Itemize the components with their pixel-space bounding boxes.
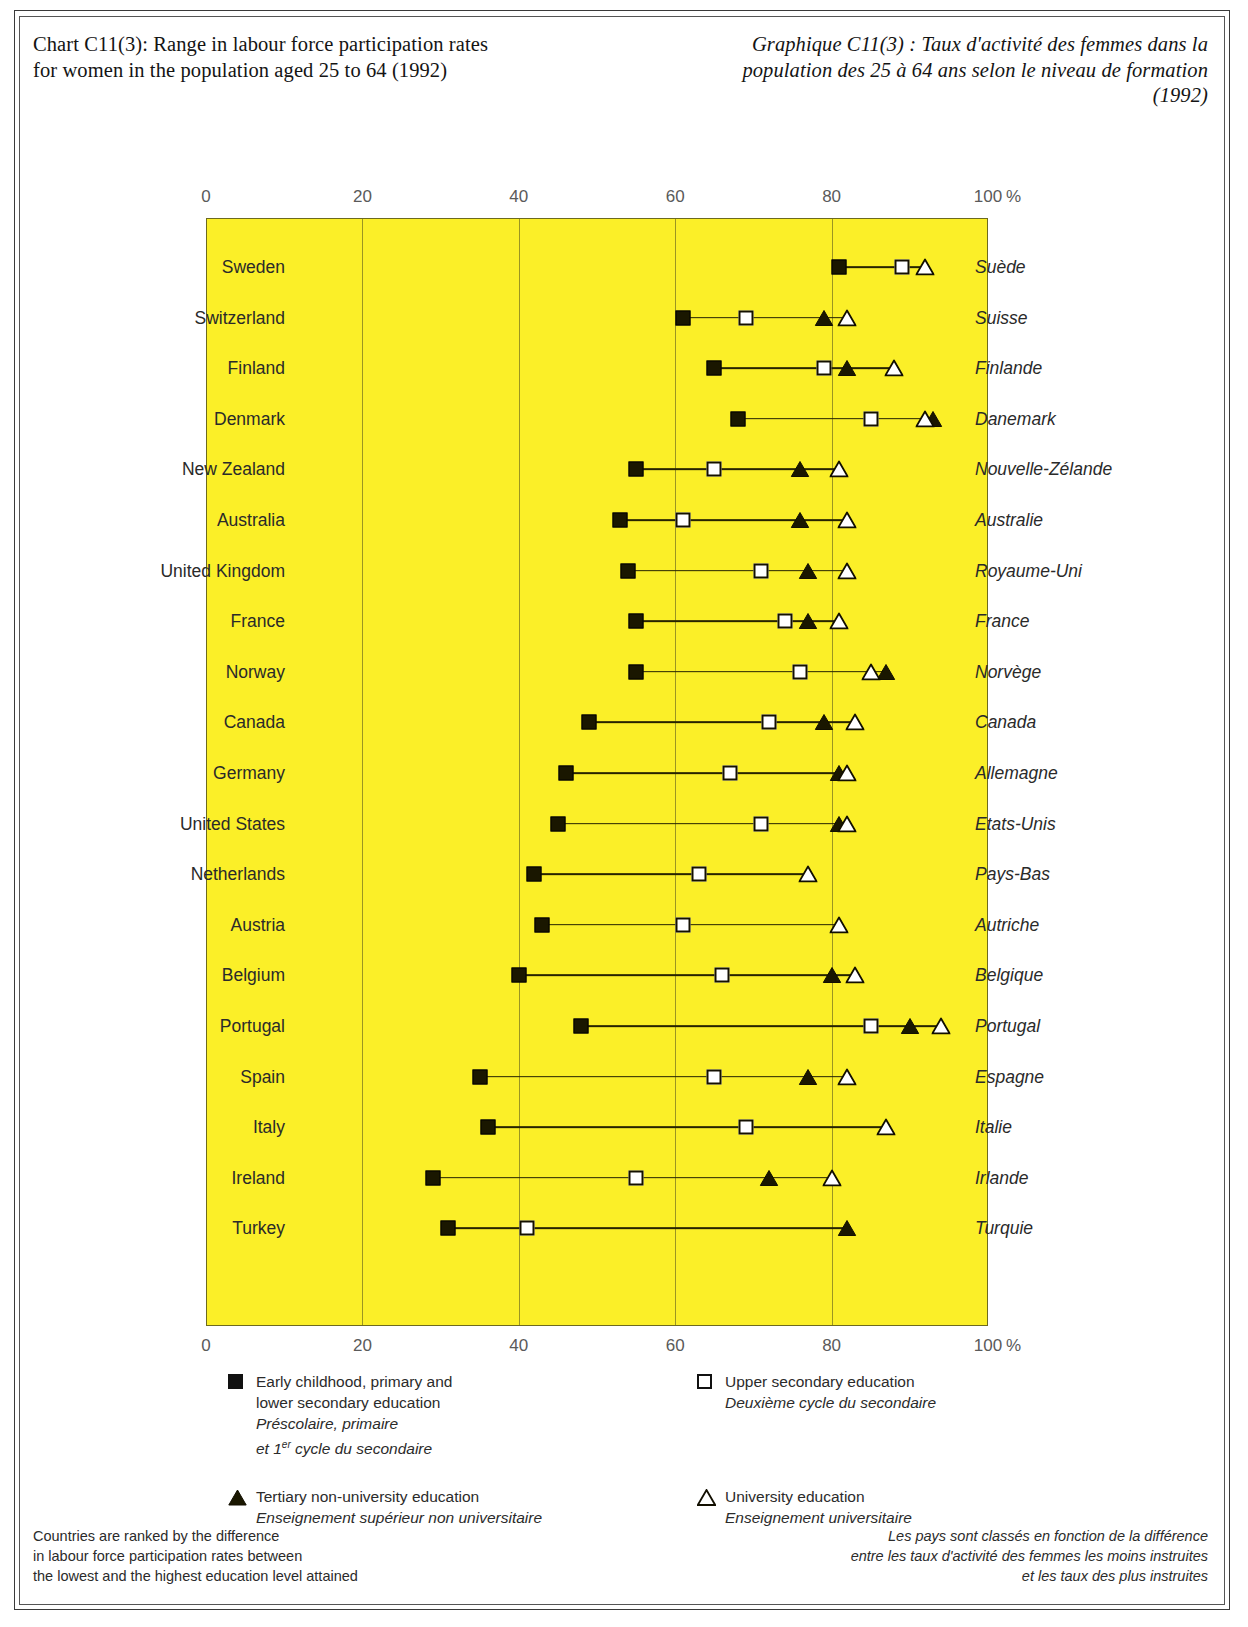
axis-tick-label-60: 60 xyxy=(666,1336,685,1356)
axis-tick-label-0: 0 xyxy=(201,187,210,207)
row-label-en-australia: Australia xyxy=(217,510,285,531)
range-line xyxy=(738,418,934,420)
marker-open-square xyxy=(863,411,878,426)
marker-open-triangle xyxy=(846,967,865,984)
marker-filled-triangle xyxy=(791,461,810,478)
marker-open-triangle xyxy=(838,1068,857,1085)
row-label-en-united-kingdom: United Kingdom xyxy=(160,560,285,581)
marker-open-square xyxy=(707,462,722,477)
marker-open-square xyxy=(816,361,831,376)
marker-open-square xyxy=(894,260,909,275)
row-label-fr-norway: Norvège xyxy=(975,661,1041,682)
axis-tick-label-100: 100 xyxy=(974,187,1002,207)
axis-tick-label-20: 20 xyxy=(353,187,372,207)
marker-open-triangle xyxy=(877,1119,896,1136)
marker-open-triangle xyxy=(799,866,818,883)
axis-tick-label-40: 40 xyxy=(509,187,528,207)
row-label-fr-austria: Autriche xyxy=(975,914,1039,935)
marker-filled-square xyxy=(480,1120,495,1135)
range-line xyxy=(448,1228,847,1230)
filled-square-icon xyxy=(228,1374,243,1389)
marker-open-triangle xyxy=(838,309,857,326)
axis-tick-label-0: 0 xyxy=(201,1336,210,1356)
marker-filled-square xyxy=(535,917,550,932)
marker-open-triangle xyxy=(916,410,935,427)
axis-tick-label-80: 80 xyxy=(822,187,841,207)
range-line xyxy=(839,266,925,268)
gridline xyxy=(362,219,363,1325)
marker-open-square xyxy=(676,513,691,528)
row-label-fr-portugal: Portugal xyxy=(975,1016,1040,1037)
marker-open-triangle xyxy=(932,1018,951,1035)
row-label-en-turkey: Turkey xyxy=(232,1218,285,1239)
marker-open-square xyxy=(754,816,769,831)
range-line xyxy=(620,519,847,521)
marker-filled-triangle xyxy=(814,309,833,326)
marker-filled-triangle xyxy=(838,360,857,377)
marker-filled-square xyxy=(629,614,644,629)
marker-filled-triangle xyxy=(799,1068,818,1085)
range-line xyxy=(566,772,848,774)
axis-tick-label-40: 40 xyxy=(509,1336,528,1356)
marker-open-square xyxy=(722,766,737,781)
row-label-en-spain: Spain xyxy=(240,1066,285,1087)
marker-filled-triangle xyxy=(799,613,818,630)
range-line xyxy=(488,1126,887,1128)
legend-label-en: University education xyxy=(725,1486,912,1507)
marker-filled-triangle xyxy=(791,512,810,529)
legend-label-fr: Enseignement universitaire xyxy=(725,1507,912,1528)
range-line xyxy=(714,367,894,369)
marker-open-square xyxy=(676,917,691,932)
filled-triangle-icon xyxy=(228,1489,247,1510)
row-label-fr-australia: Australie xyxy=(975,510,1043,531)
marker-open-triangle xyxy=(846,714,865,731)
marker-filled-triangle xyxy=(900,1018,919,1035)
marker-filled-triangle xyxy=(838,1220,857,1237)
marker-open-square xyxy=(777,614,792,629)
marker-filled-triangle xyxy=(822,967,841,984)
range-line xyxy=(519,975,855,977)
marker-open-square xyxy=(754,563,769,578)
marker-filled-square xyxy=(730,411,745,426)
row-label-en-norway: Norway xyxy=(226,661,285,682)
legend-label-en: Tertiary non-university education xyxy=(256,1486,542,1507)
marker-open-square xyxy=(863,1019,878,1034)
marker-open-square xyxy=(691,867,706,882)
legend-label-en: Early childhood, primary and lower secon… xyxy=(256,1371,452,1413)
row-label-fr-netherlands: Pays-Bas xyxy=(975,864,1050,885)
marker-filled-square xyxy=(582,715,597,730)
axis-tick-label-20: 20 xyxy=(353,1336,372,1356)
row-label-fr-turkey: Turquie xyxy=(975,1218,1033,1239)
marker-open-triangle xyxy=(822,1169,841,1186)
chart-plot-wrapper: 020406080100% 020406080100% SwedenSuèdeS… xyxy=(0,0,1248,1627)
row-label-fr-italy: Italie xyxy=(975,1117,1012,1138)
row-label-fr-united-kingdom: Royaume-Uni xyxy=(975,560,1082,581)
row-label-fr-new-zealand: Nouvelle-Zélande xyxy=(975,459,1112,480)
legend-label-fr: Enseignement supérieur non universitaire xyxy=(256,1507,542,1528)
row-label-en-united-states: United States xyxy=(180,813,285,834)
row-label-en-austria: Austria xyxy=(231,914,285,935)
range-line xyxy=(636,671,886,673)
marker-open-square xyxy=(715,968,730,983)
marker-filled-square xyxy=(707,361,722,376)
row-label-fr-germany: Allemagne xyxy=(975,763,1058,784)
legend-label-fr: Deuxième cycle du secondaire xyxy=(725,1392,936,1413)
range-line xyxy=(480,1076,848,1078)
marker-open-triangle xyxy=(838,512,857,529)
marker-open-triangle xyxy=(885,360,904,377)
row-label-en-netherlands: Netherlands xyxy=(191,864,285,885)
marker-open-square xyxy=(707,1069,722,1084)
marker-open-square xyxy=(738,1120,753,1135)
row-label-en-finland: Finland xyxy=(228,358,285,379)
marker-open-triangle xyxy=(830,916,849,933)
marker-filled-square xyxy=(629,664,644,679)
marker-filled-square xyxy=(621,563,636,578)
marker-filled-square xyxy=(558,766,573,781)
marker-filled-square xyxy=(550,816,565,831)
range-line xyxy=(542,924,839,926)
row-label-fr-canada: Canada xyxy=(975,712,1036,733)
row-label-fr-denmark: Danemark xyxy=(975,408,1056,429)
marker-filled-square xyxy=(511,968,526,983)
row-label-en-france: France xyxy=(231,611,285,632)
marker-filled-square xyxy=(629,462,644,477)
